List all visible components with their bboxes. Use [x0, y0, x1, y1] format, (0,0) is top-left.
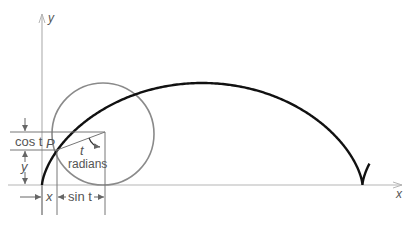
y-axis-label: y	[47, 11, 55, 25]
cos-t-label: cos t	[15, 134, 43, 149]
angle-arc-icon	[89, 138, 100, 147]
x-dimension-label: x	[45, 189, 53, 204]
diagram-canvas: y x cos t P y x sin t	[0, 0, 415, 232]
point-p-label: P	[46, 136, 55, 151]
sin-t-label: sin t	[68, 189, 92, 204]
cycloid-diagram: y x cos t P y x sin t	[0, 0, 415, 232]
x-axis-label: x	[395, 187, 403, 201]
angle-t-label: t	[80, 143, 85, 158]
radians-label: radians	[68, 157, 107, 171]
y-dimension-label: y	[20, 159, 29, 174]
